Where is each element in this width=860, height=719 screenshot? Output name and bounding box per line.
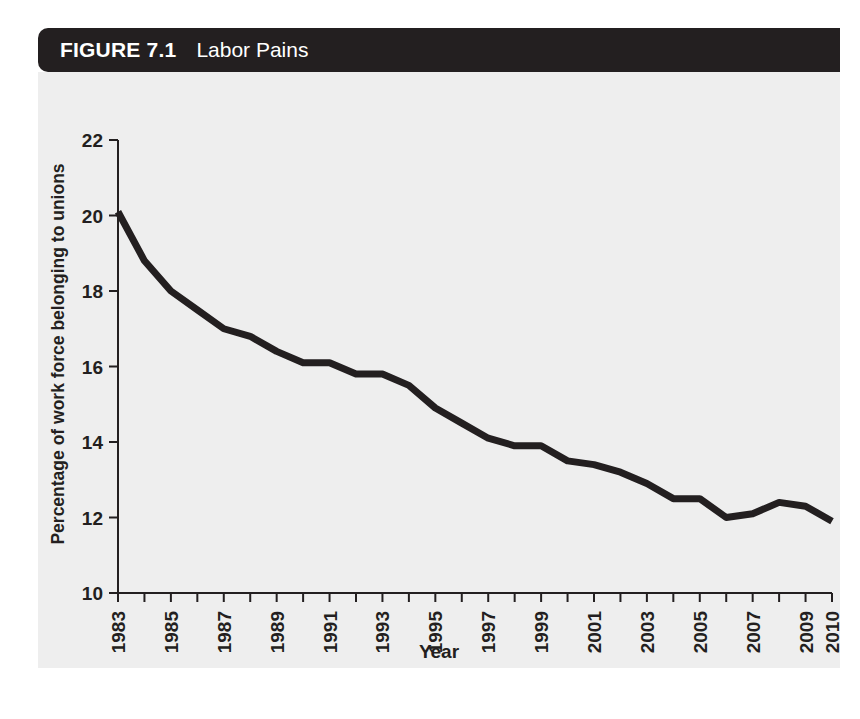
y-tick-label: 12 <box>82 508 103 529</box>
figure-title: Labor Pains <box>196 38 308 62</box>
y-axis-title: Percentage of work force belonging to un… <box>48 163 68 544</box>
y-tick-label: 22 <box>82 130 103 151</box>
union-membership-line <box>118 212 832 522</box>
x-tick-label: 2007 <box>743 611 764 653</box>
x-tick-label: 2009 <box>796 611 817 653</box>
y-axis: 10121416182022 <box>82 130 118 604</box>
x-tick-label: 1983 <box>108 611 129 653</box>
x-axis: 1983198519871989199119931995199719992001… <box>108 593 840 653</box>
y-tick-label: 18 <box>82 281 103 302</box>
y-tick-label: 16 <box>82 357 103 378</box>
x-tick-label: 1991 <box>320 611 341 654</box>
figure-number: FIGURE 7.1 <box>60 38 176 62</box>
chart-area: 10121416182022 1983198519871989199119931… <box>38 72 840 668</box>
x-axis-title: Year <box>419 641 460 662</box>
y-tick-label: 14 <box>82 432 104 453</box>
x-tick-label: 1997 <box>478 611 499 653</box>
x-tick-label: 1989 <box>267 611 288 653</box>
line-chart: 10121416182022 1983198519871989199119931… <box>38 72 840 668</box>
x-tick-label: 2005 <box>690 611 711 654</box>
figure-header-bar: FIGURE 7.1 Labor Pains <box>38 28 840 72</box>
x-tick-label: 2003 <box>637 611 658 653</box>
figure-panel: FIGURE 7.1 Labor Pains 10121416182022 19… <box>38 28 840 668</box>
x-tick-label: 1999 <box>531 611 552 653</box>
x-tick-label: 2010 <box>822 611 840 653</box>
x-tick-label: 1993 <box>372 611 393 653</box>
x-tick-label: 1987 <box>214 611 235 653</box>
y-tick-label: 10 <box>82 583 103 604</box>
x-tick-label: 1985 <box>161 611 182 654</box>
x-tick-label: 2001 <box>584 611 605 654</box>
y-tick-label: 20 <box>82 206 103 227</box>
